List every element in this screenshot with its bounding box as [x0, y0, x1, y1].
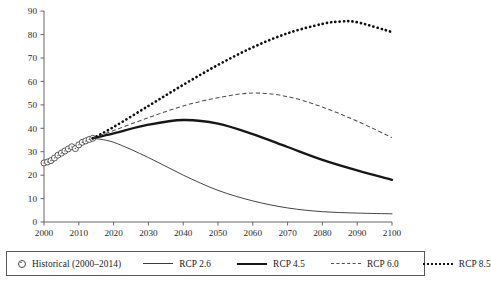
legend-item-rcp60[interactable]: RCP 6.0 — [331, 252, 399, 275]
x-tick-label: 2000 — [35, 228, 54, 238]
legend-item-rcp26[interactable]: RCP 2.6 — [143, 252, 211, 275]
x-tick-label: 2010 — [70, 228, 89, 238]
series-line-rcp85 — [93, 21, 392, 138]
y-tick-label: 90 — [28, 6, 38, 16]
data-series-layer — [41, 21, 392, 214]
y-tick-label: 0 — [32, 217, 37, 227]
series-line-rcp26 — [93, 138, 392, 213]
series-markers-historical — [41, 135, 96, 166]
x-tick-label: 2050 — [209, 228, 228, 238]
x-tick-label: 2080 — [313, 228, 332, 238]
x-tick-marks — [44, 222, 392, 226]
legend-item-rcp85[interactable]: RCP 8.5 — [423, 252, 491, 275]
x-tick-label: 2030 — [139, 228, 158, 238]
legend-label-rcp85: RCP 8.5 — [459, 259, 491, 269]
x-tick-label: 2070 — [278, 228, 297, 238]
y-tick-label: 30 — [28, 147, 38, 157]
y-tick-label: 10 — [28, 194, 38, 204]
y-tick-labels: 0 10 20 30 40 50 60 70 80 90 — [28, 6, 38, 227]
x-tick-label: 2100 — [383, 228, 402, 238]
y-tick-label: 50 — [28, 100, 38, 110]
open-circle-marker-icon — [16, 260, 26, 268]
legend-item-rcp45[interactable]: RCP 4.5 — [237, 252, 305, 275]
y-tick-label: 40 — [28, 124, 38, 134]
dotted-line-icon — [423, 263, 453, 265]
legend-label-rcp26: RCP 2.6 — [179, 259, 211, 269]
thin-solid-line-icon — [143, 263, 173, 264]
legend-label-rcp45: RCP 4.5 — [273, 259, 305, 269]
x-tick-label: 2060 — [244, 228, 263, 238]
y-tick-label: 70 — [28, 53, 38, 63]
x-tick-label: 2040 — [174, 228, 193, 238]
y-tick-label: 80 — [28, 30, 38, 40]
dashed-line-icon — [331, 263, 361, 264]
thick-solid-line-icon — [237, 263, 267, 265]
y-tick-label: 20 — [28, 170, 38, 180]
chart-legend: Historical (2000–2014) RCP 2.6 RCP 4.5 R… — [6, 251, 425, 276]
y-tick-marks — [41, 11, 45, 222]
legend-label-rcp60: RCP 6.0 — [367, 259, 399, 269]
x-tick-labels: 2000 2010 2020 2030 2040 2050 2060 2070 … — [35, 228, 402, 238]
y-tick-label: 60 — [28, 77, 38, 87]
x-tick-label: 2020 — [104, 228, 123, 238]
x-tick-label: 2090 — [348, 228, 367, 238]
series-line-rcp45 — [93, 120, 392, 180]
legend-item-historical[interactable]: Historical (2000–2014) — [16, 252, 121, 275]
legend-label-historical: Historical (2000–2014) — [32, 259, 121, 269]
